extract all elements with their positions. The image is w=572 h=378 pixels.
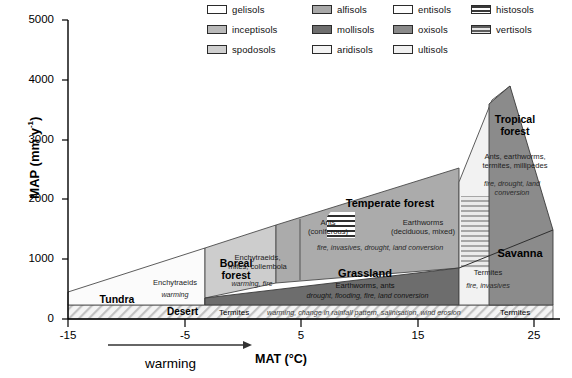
fauna-desert-right: Termites [500,308,530,317]
x-tick-minus15: -15 [48,329,88,341]
x-tick-25: 25 [514,329,554,341]
fauna-tropical-line2: termites, millipedes [467,161,563,170]
y-axis-title-close: ) [27,117,42,121]
fauna-grassland: Earthworms, ants [310,281,420,290]
threats-tropical-line2: conversion [466,189,558,198]
fauna-temperate-deciduous-line1: Earthworms [368,218,478,227]
fauna-temperate-deciduous-line2: (deciduous, mixed) [368,227,478,236]
y-tick-2000: 2000 [14,192,54,204]
x-tick-marks [68,319,534,327]
threats-desert: warming, change in rainfall pattern, sal… [267,308,461,317]
biome-label-temperate: Temperate forest [320,198,460,210]
threats-temperate: fire, invasives, drought, land conversio… [285,244,475,253]
fauna-temperate-coniferous-line1: Ants [288,218,368,227]
y-tick-3000: 3000 [14,133,54,145]
y-axis-title-exponent: -1 [26,121,35,128]
fauna-boreal-line2: mites, collembola [205,262,310,271]
threats-boreal: warming, fire [207,280,297,289]
y-tick-4000: 4000 [14,73,54,85]
fauna-tropical-line1: Ants, earthworms, [467,152,563,161]
y-tick-1000: 1000 [14,252,54,264]
threats-tundra: warming [131,291,219,300]
y-tick-marks [62,20,68,319]
x-tick-5: 5 [281,329,321,341]
biome-label-desert: Desert [167,306,198,317]
x-tick-minus5: -5 [165,329,205,341]
x-tick-15: 15 [398,329,438,341]
biome-label-tropical-line2: forest [480,126,550,138]
warming-label: warming [145,356,196,371]
fauna-temperate-coniferous-line2: (coniferous) [288,227,368,236]
biome-label-grassland: Grassland [310,268,420,280]
warming-arrow-icon [108,341,252,349]
x-axis-title: MAT (°C) [255,352,307,366]
fauna-savanna: Termites [458,268,518,277]
fauna-desert-left: Termites [219,308,249,317]
threats-grassland: drought, flooding, fire, land conversion [280,292,455,301]
threats-savanna: fire, invasives [455,282,521,291]
biome-label-tropical-line1: Tropical [480,114,550,126]
y-tick-0: 0 [14,312,54,324]
biome-label-savanna: Savanna [485,248,555,260]
y-tick-5000: 5000 [14,13,54,25]
fauna-boreal-line1: Enchytraeids, [205,253,310,262]
figure-canvas: gelisols alfisols entisols histosols inc… [0,0,572,378]
